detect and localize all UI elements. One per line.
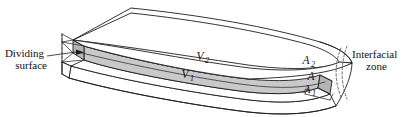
area-upper-symbol: A	[301, 54, 310, 66]
left-end-diagonal-upper	[62, 40, 73, 42]
area-lower-subscript: 1	[312, 89, 316, 98]
area-dividing-symbol: A	[306, 70, 315, 82]
right-silhouette-curve	[336, 63, 352, 106]
area-upper-subscript: 2	[311, 60, 315, 69]
dividing-surface-label-line1: Dividing	[5, 47, 45, 59]
interfacial-zone-label-line1: Interfacial	[352, 48, 397, 60]
volume-upper-subscript: 2	[205, 56, 209, 65]
interfacial-zone-label-line2: zone	[366, 60, 387, 72]
left-end-upper-hidden-edge	[62, 34, 73, 40]
figure-container: Dividing surface Interfacial zone V 2 V …	[0, 0, 406, 117]
dividing-surface-label-line2: surface	[15, 59, 47, 71]
left-end-v-lower	[62, 53, 73, 62]
area-lower-symbol: A	[302, 83, 311, 95]
diagram-canvas: Dividing surface Interfacial zone V 2 V …	[0, 0, 406, 117]
volume-lower-subscript: 1	[190, 74, 194, 83]
